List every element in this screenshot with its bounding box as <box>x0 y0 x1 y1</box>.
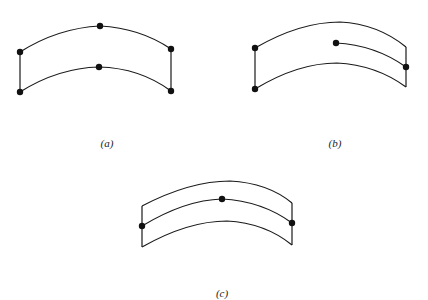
panel-a-top-arc <box>20 26 171 52</box>
panel-a-node <box>96 64 102 70</box>
panel-a-label: (a) <box>101 137 114 150</box>
panel-b-label: (b) <box>329 137 342 150</box>
panel-a-node <box>168 88 174 94</box>
panel-b-node <box>252 45 258 51</box>
panel-c-node <box>219 196 225 202</box>
panel-b-node <box>333 40 339 46</box>
panel-b-node <box>252 86 258 92</box>
panel-c-node <box>139 223 145 229</box>
panel-c-top-arc <box>142 181 292 206</box>
panel-c-node <box>289 220 295 226</box>
panel-a-node <box>17 89 23 95</box>
panel-b-node <box>403 64 409 70</box>
panel-a-node <box>168 46 174 52</box>
diagram-canvas: (a) (b) (c) <box>0 0 428 300</box>
panel-b-top-arc <box>255 22 406 48</box>
panel-a-bottom-arc <box>20 67 171 92</box>
panel-a-node <box>17 49 23 55</box>
panel-b-bottom-arc <box>255 63 406 89</box>
panel-b: (b) <box>252 22 409 150</box>
panel-c-label: (c) <box>216 287 229 300</box>
panel-c-bottom-arc <box>142 221 292 247</box>
panel-a-node <box>97 23 103 29</box>
panel-c: (c) <box>139 181 295 300</box>
panel-a: (a) <box>17 23 174 150</box>
